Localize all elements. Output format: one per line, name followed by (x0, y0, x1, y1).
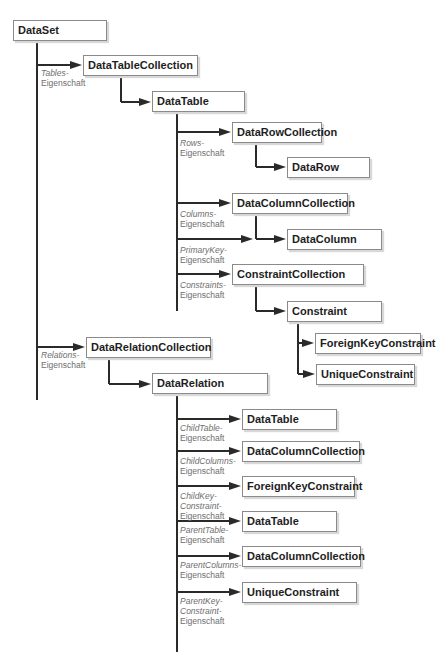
arrow-connector (177, 415, 241, 423)
node-rel-parentcolumns: DataColumnCollection (242, 546, 361, 567)
property-name: Constraints- (180, 280, 226, 290)
property-label-constraints-prop: Constraints-Eigenschaft (180, 280, 226, 300)
node-rel-childcolumns: DataColumnCollection (242, 441, 360, 462)
arrow-connector (109, 380, 151, 388)
property-name: ChildKey- (180, 491, 224, 501)
property-name: Rows- (180, 138, 224, 148)
property-name-cont: Constraint- (180, 501, 224, 511)
node-datatable: DataTable (152, 91, 245, 112)
arrowhead-icon (303, 370, 315, 378)
property-suffix: Eigenschaft (180, 511, 224, 521)
arrowhead-icon (274, 235, 286, 243)
property-suffix: Eigenschaft (180, 255, 227, 265)
property-name: Tables- (41, 68, 85, 78)
node-datarowcollection: DataRowCollection (232, 122, 322, 143)
property-suffix: Eigenschaft (180, 616, 224, 626)
property-label-primarykey-prop: PrimaryKey-Eigenschaft (180, 245, 227, 265)
property-name: Columns- (180, 209, 224, 219)
arrowhead-icon (241, 235, 253, 243)
arrowhead-icon (219, 270, 231, 278)
property-suffix: Eigenschaft (180, 290, 226, 300)
node-rel-childtable: DataTable (242, 409, 337, 430)
property-label-columns-prop: Columns-Eigenschaft (180, 209, 224, 229)
property-name: ChildColumns- (180, 456, 236, 466)
property-label-parenttable-prop: ParentTable-Eigenschaft (180, 525, 228, 545)
dataset-object-model-diagram: DataSetDataTableCollectionDataTableDataR… (0, 0, 445, 665)
property-label-tables-prop: Tables-Eigenschaft (41, 68, 85, 88)
arrow-connector (177, 588, 241, 596)
arrow-connector (177, 235, 253, 243)
property-label-parentcolumns-prop: ParentColumns-Eigenschaft (180, 560, 241, 580)
property-suffix: Eigenschaft (41, 360, 85, 370)
arrow-connector (177, 552, 241, 560)
arrowhead-icon (229, 482, 241, 490)
property-suffix: Eigenschaft (180, 570, 241, 580)
arrow-connector (256, 235, 286, 243)
node-rel-parenttable: DataTable (242, 511, 337, 532)
property-suffix: Eigenschaft (41, 78, 85, 88)
property-label-relations-prop: Relations-Eigenschaft (41, 350, 85, 370)
property-label-childkeyconstraint-prop: ChildKey-Constraint-Eigenschaft (180, 491, 224, 521)
arrowhead-icon (139, 98, 151, 106)
arrow-connector (177, 199, 231, 207)
property-name: Relations- (41, 350, 85, 360)
property-label-childtable-prop: ChildTable-Eigenschaft (180, 423, 224, 443)
arrowhead-icon (219, 199, 231, 207)
arrow-connector (121, 98, 151, 106)
node-uniqueconstraint: UniqueConstraint (316, 364, 415, 385)
property-label-parentkeyconstraint-prop: ParentKey-Constraint-Eigenschaft (180, 596, 224, 626)
property-suffix: Eigenschaft (180, 535, 228, 545)
property-suffix: Eigenschaft (180, 433, 224, 443)
property-suffix: Eigenschaft (180, 219, 224, 229)
property-suffix: Eigenschaft (180, 148, 224, 158)
property-name: ParentTable- (180, 525, 228, 535)
arrow-connector (177, 128, 231, 136)
property-suffix: Eigenschaft (180, 466, 236, 476)
node-rel-parentkeyconstraint: UniqueConstraint (242, 582, 357, 603)
node-datarelation: DataRelation (152, 373, 268, 394)
property-label-childcolumns-prop: ChildColumns-Eigenschaft (180, 456, 236, 476)
arrowhead-icon (229, 447, 241, 455)
arrowhead-icon (219, 128, 231, 136)
arrowhead-icon (274, 307, 286, 315)
arrow-connector (177, 270, 231, 278)
node-dataset: DataSet (13, 20, 107, 41)
arrow-connector (298, 370, 315, 378)
node-rel-childkeyconstraint: ForeignKeyConstraint (242, 476, 355, 497)
property-name: ParentColumns- (180, 560, 241, 570)
node-datarow: DataRow (287, 157, 370, 178)
arrow-connector (256, 163, 286, 171)
arrow-connector (177, 482, 241, 490)
arrow-connector (256, 307, 286, 315)
arrowhead-icon (229, 588, 241, 596)
property-label-rows-prop: Rows-Eigenschaft (180, 138, 224, 158)
arrow-connector (298, 339, 314, 347)
node-datacolumncollection: DataColumnCollection (232, 193, 348, 214)
arrow-connector (177, 447, 241, 455)
node-foreignkeyconstraint: ForeignKeyConstraint (315, 333, 421, 354)
node-datacolumn: DataColumn (287, 229, 382, 250)
node-constraint: Constraint (287, 301, 382, 322)
property-name-cont: Constraint- (180, 606, 224, 616)
node-datatablecollection: DataTableCollection (83, 55, 198, 76)
property-name: ChildTable- (180, 423, 224, 433)
arrowhead-icon (229, 517, 241, 525)
node-constraintcollection: ConstraintCollection (232, 264, 364, 285)
arrowhead-icon (274, 163, 286, 171)
node-datarelationcollection: DataRelationCollection (86, 337, 211, 358)
arrowhead-icon (139, 380, 151, 388)
property-name: PrimaryKey- (180, 245, 227, 255)
property-name: ParentKey- (180, 596, 224, 606)
arrowhead-icon (229, 552, 241, 560)
arrowhead-icon (302, 339, 314, 347)
arrowhead-icon (229, 415, 241, 423)
